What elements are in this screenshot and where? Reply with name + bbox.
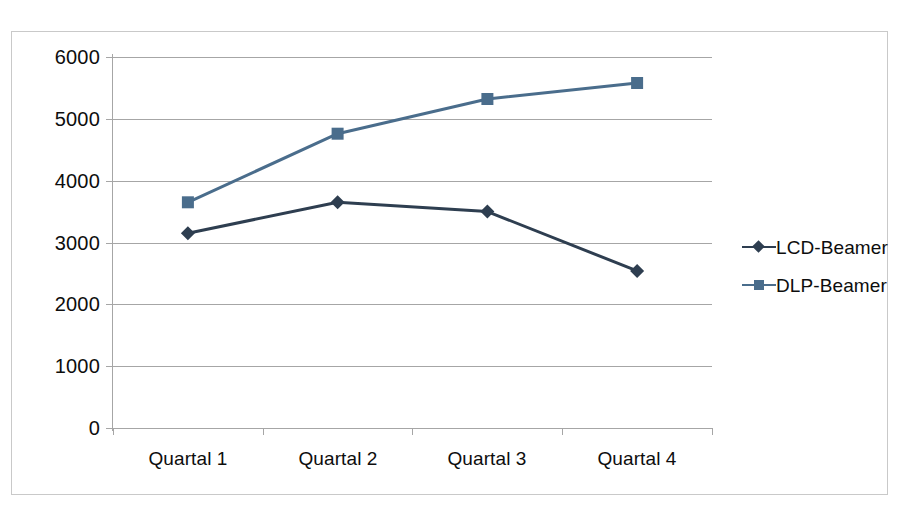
legend-marker-diamond-icon: [742, 238, 776, 256]
gridline-1000: [113, 366, 712, 367]
legend-marker-square-icon: [742, 276, 776, 294]
legend-item-lcd-beamer[interactable]: LCD-Beamer: [742, 228, 892, 266]
gridline-2000: [113, 304, 712, 305]
gridline-6000: [113, 57, 712, 58]
x-axis-label-quartal-4: Quartal 4: [597, 448, 676, 470]
x-axis-label-quartal-1: Quartal 1: [148, 448, 227, 470]
y-tick-6000: [106, 57, 113, 58]
x-axis-label-quartal-3: Quartal 3: [447, 448, 526, 470]
x-tick-3: [562, 428, 563, 435]
legend-label-dlp-beamer: DLP-Beamer: [776, 276, 887, 295]
legend-label-lcd-beamer: LCD-Beamer: [776, 238, 888, 257]
y-axis-label-4000: 4000: [12, 171, 100, 191]
y-axis-label-3000: 3000: [12, 233, 100, 253]
gridline-5000: [113, 119, 712, 120]
y-tick-5000: [106, 119, 113, 120]
y-tick-0: [106, 428, 113, 429]
x-axis-label-quartal-2: Quartal 2: [298, 448, 377, 470]
legend-item-dlp-beamer[interactable]: DLP-Beamer: [742, 266, 892, 304]
gridline-3000: [113, 243, 712, 244]
chart-legend: LCD-Beamer DLP-Beamer: [742, 228, 892, 304]
x-tick-4: [712, 428, 713, 435]
x-tick-0: [113, 428, 114, 435]
x-tick-1: [263, 428, 264, 435]
x-tick-2: [412, 428, 413, 435]
plot-area: [113, 57, 712, 428]
y-tick-4000: [106, 181, 113, 182]
gridline-4000: [113, 181, 712, 182]
y-axis-label-0: 0: [12, 418, 100, 438]
y-tick-2000: [106, 304, 113, 305]
y-axis-label-1000: 1000: [12, 356, 100, 376]
y-tick-1000: [106, 366, 113, 367]
y-tick-3000: [106, 243, 113, 244]
line-chart: 6000 5000 4000 3000 2000 1000 0 Quartal …: [0, 0, 912, 523]
y-axis-labels: 6000 5000 4000 3000 2000 1000 0: [0, 0, 100, 523]
y-axis-label-6000: 6000: [12, 47, 100, 67]
y-axis-label-2000: 2000: [12, 294, 100, 314]
y-axis-label-5000: 5000: [12, 109, 100, 129]
